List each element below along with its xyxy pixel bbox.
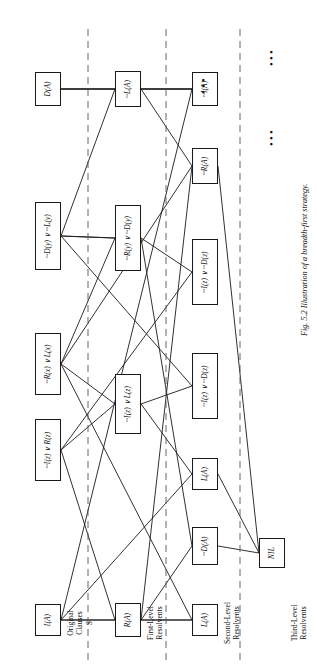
resolution-edge bbox=[218, 166, 259, 553]
clause-node[interactable]: ~I(z) ∨ L(z) bbox=[115, 374, 141, 434]
clause-node[interactable]: L(A) bbox=[192, 458, 218, 490]
band-label-first-level-resolvents: First-Level Resolvents bbox=[146, 588, 165, 658]
resolution-edge bbox=[218, 474, 259, 553]
clause-node[interactable]: D(A) bbox=[35, 72, 61, 106]
resolution-edge bbox=[141, 404, 192, 474]
figure-caption: Fig. 5.2 Illustration of a breadth-first… bbox=[300, 184, 309, 336]
clause-node[interactable]: ~D(y) ∨ ~L(y) bbox=[35, 202, 61, 270]
clause-node[interactable]: NIL bbox=[259, 538, 285, 568]
clause-node[interactable]: ~I(z) ∨ R(z) bbox=[35, 419, 61, 481]
band-label-second-level-resolvents: Second-Level Resolvents bbox=[223, 588, 242, 658]
band-label-third-level-resolvents: Third-Level Resolvents bbox=[290, 588, 309, 658]
resolution-edge bbox=[61, 89, 192, 620]
clause-node[interactable]: ~I(z) ∨ ~D(z) bbox=[192, 239, 218, 305]
ellipsis-second-level: ••• bbox=[198, 76, 209, 94]
resolution-edge bbox=[141, 166, 192, 620]
clause-node[interactable]: L(A) bbox=[192, 604, 218, 636]
ellipsis-third-level-a: ••• bbox=[266, 128, 277, 146]
clause-node[interactable]: ~D(A) bbox=[192, 527, 218, 565]
clause-node[interactable]: ~R(y) ∨ ~D(y) bbox=[115, 205, 141, 271]
clause-node[interactable]: R(A) bbox=[115, 603, 141, 637]
figure-stage: I(A) ~I(z) ∨ R(z) ~R(x) ∨ L(x) ~D(y) ∨ ~… bbox=[0, 0, 317, 666]
clause-node[interactable]: I(A) bbox=[35, 604, 61, 636]
resolution-edge bbox=[218, 546, 259, 553]
clause-node[interactable]: ~R(x) ∨ L(x) bbox=[35, 333, 61, 395]
resolution-edge bbox=[141, 89, 192, 166]
clause-node[interactable]: ~I(z) ∨ ~D(z) bbox=[192, 353, 218, 419]
resolution-graph: I(A) ~I(z) ∨ R(z) ~R(x) ∨ L(x) ~D(y) ∨ ~… bbox=[0, 0, 317, 666]
clause-node[interactable]: ~R(A) bbox=[192, 148, 218, 184]
clause-node[interactable]: ~L(A) bbox=[115, 71, 141, 107]
resolution-edge bbox=[141, 238, 192, 272]
ellipsis-third-level-b: ••• bbox=[266, 48, 277, 66]
band-label-original-clauses: Original Clauses S bbox=[66, 588, 94, 658]
